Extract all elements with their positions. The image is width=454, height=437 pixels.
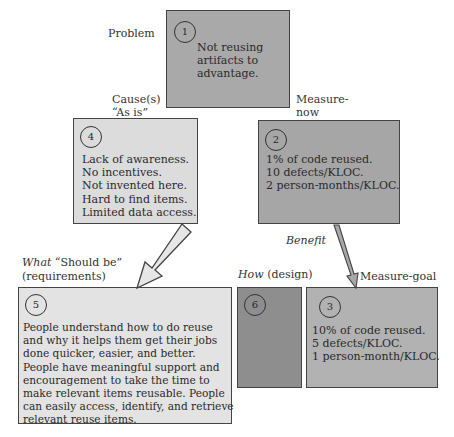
should-be-arrow-icon (137, 224, 191, 288)
arrows-layer (0, 0, 454, 437)
benefit-arrow-icon (334, 225, 358, 288)
